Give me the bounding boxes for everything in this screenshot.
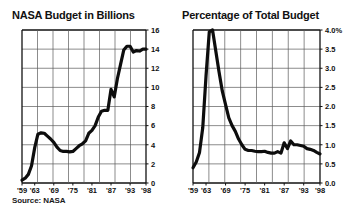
xtick-label: '93: [299, 186, 309, 195]
xtick-label: '81: [260, 186, 270, 195]
ytick-label: 6: [151, 121, 155, 130]
ytick-label: 12: [151, 64, 159, 73]
ytick-label: 0.5: [325, 160, 335, 169]
ytick-label: 1.0: [325, 141, 335, 150]
ytick-label: 2.0: [325, 102, 335, 111]
ytick-label: 10: [151, 83, 159, 92]
ytick-label: 0: [151, 179, 155, 188]
ytick-label: 2: [151, 160, 155, 169]
xtick-label: '69: [49, 186, 59, 195]
chart-plot-percentage: 0.00.51.01.52.02.53.03.54.0%'59'63'69'75…: [176, 0, 359, 221]
xtick-label: '87: [106, 186, 116, 195]
xtick-label: '98: [141, 186, 151, 195]
ytick-label: 14: [151, 45, 160, 54]
ytick-label: 3.5: [325, 45, 335, 54]
xtick-label: '75: [68, 186, 78, 195]
ytick-label: 4.0%: [325, 26, 342, 35]
ytick-label: 16: [151, 26, 159, 35]
xtick-label: '59: [17, 186, 27, 195]
xtick-label: '63: [201, 186, 211, 195]
chart-panel-percentage: Percentage of Total Budget 0.00.51.01.52…: [176, 0, 359, 221]
chart-plot-nasa-budget: 0246810121416'59'63'69'75'81'87'93'98: [0, 0, 176, 221]
xtick-label: '63: [30, 186, 40, 195]
ytick-label: 8: [151, 102, 155, 111]
xtick-label: '87: [279, 186, 289, 195]
ytick-label: 3.0: [325, 64, 335, 73]
xtick-label: '69: [220, 186, 230, 195]
ytick-label: 4: [151, 141, 156, 150]
ytick-label: 2.5: [325, 83, 335, 92]
xtick-label: '93: [125, 186, 135, 195]
chart-panel-nasa-budget: NASA Budget in Billions 0246810121416'59…: [0, 0, 176, 221]
xtick-label: '59: [188, 186, 198, 195]
ytick-label: 0.0: [325, 179, 335, 188]
xtick-label: '98: [315, 186, 325, 195]
ytick-label: 1.5: [325, 121, 335, 130]
xtick-label: '81: [87, 186, 97, 195]
xtick-label: '75: [240, 186, 250, 195]
nasa-budget-figure: NASA Budget in Billions 0246810121416'59…: [0, 0, 359, 221]
source-note: Source: NASA: [12, 196, 65, 205]
